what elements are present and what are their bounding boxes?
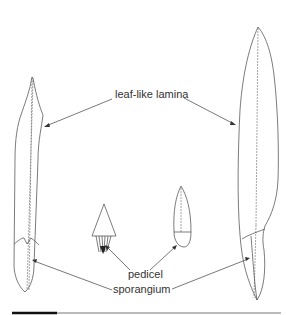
lamina-arrows	[44, 98, 236, 127]
specimen-left	[14, 77, 43, 292]
specimen-right	[238, 27, 278, 300]
botanical-figure: leaf-like lamina pedicel sporangium	[0, 0, 287, 315]
label-pedicel: pedicel	[128, 268, 163, 280]
label-leaf-like-lamina: leaf-like lamina	[115, 88, 188, 100]
specimen-triangle	[92, 204, 116, 254]
pedicel-arrows	[105, 245, 177, 270]
specimen-oval	[174, 186, 191, 247]
label-sporangium: sporangium	[113, 283, 170, 295]
